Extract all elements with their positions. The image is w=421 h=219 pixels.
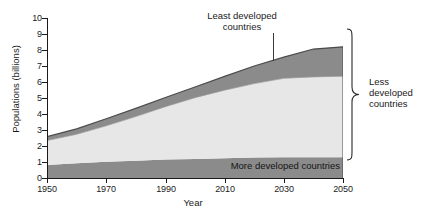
x-tick-mark (284, 179, 285, 183)
y-tick-label: 10 (20, 14, 42, 23)
y-tick-label: 9 (20, 30, 42, 39)
least-developed-countries-callout: Least developed countries (183, 10, 301, 32)
less-developed-brace-icon (346, 28, 360, 161)
y-tick-mark (42, 50, 47, 51)
y-tick-mark (42, 34, 47, 35)
x-tick-mark (343, 179, 344, 183)
least-developed-leader-line (273, 33, 274, 61)
x-tick-label: 1950 (27, 184, 67, 194)
callout-line-2: countries (183, 21, 301, 32)
brace-label-line-1: Less (369, 76, 421, 87)
x-tick-mark (106, 179, 107, 183)
less-developed-countries-label: Less developed countries (369, 76, 421, 109)
y-tick-label: 6 (20, 78, 42, 87)
more-developed-countries-label: More developed countries (222, 160, 340, 171)
x-tick-label: 2010 (205, 184, 245, 194)
y-axis-line (47, 18, 48, 179)
y-tick-label: 3 (20, 126, 42, 135)
y-tick-mark (42, 114, 47, 115)
x-axis-line (47, 178, 344, 179)
x-tick-label: 2050 (323, 184, 363, 194)
y-tick-mark (42, 18, 47, 19)
y-tick-mark (42, 146, 47, 147)
y-tick-label: 2 (20, 142, 42, 151)
y-tick-label: 8 (20, 46, 42, 55)
brace-label-line-3: countries (369, 98, 421, 109)
y-tick-mark (42, 162, 47, 163)
population-projection-chart: 10 9 8 7 6 5 4 3 2 1 0 1950 1970 1990 20… (0, 0, 421, 219)
x-tick-label: 1970 (86, 184, 126, 194)
y-tick-label: 7 (20, 62, 42, 71)
plot-area (47, 18, 343, 178)
y-tick-mark (42, 82, 47, 83)
x-tick-mark (166, 179, 167, 183)
y-tick-label: 0 (20, 174, 42, 183)
y-tick-mark (42, 66, 47, 67)
x-tick-label: 1990 (146, 184, 186, 194)
x-axis-title: Year (148, 198, 238, 208)
stacked-area-series (47, 18, 343, 178)
brace-label-line-2: developed (369, 87, 421, 98)
y-tick-label: 1 (20, 158, 42, 167)
y-tick-label: 4 (20, 110, 42, 119)
x-tick-mark (225, 179, 226, 183)
y-tick-mark (42, 98, 47, 99)
y-axis-title: Populations (billions) (11, 24, 21, 154)
y-tick-mark (42, 130, 47, 131)
callout-line-1: Least developed (183, 10, 301, 21)
y-tick-label: 5 (20, 94, 42, 103)
x-tick-mark (47, 179, 48, 183)
x-tick-label: 2030 (264, 184, 304, 194)
